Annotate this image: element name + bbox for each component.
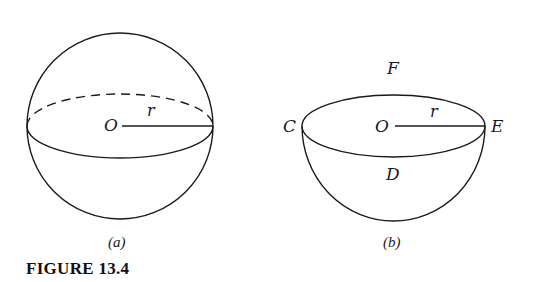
sphere-radius-label: r — [147, 103, 155, 119]
figure-caption: FIGURE 13.4 — [26, 260, 129, 277]
hemisphere-radius-label: r — [430, 104, 438, 120]
panel-a-subcaption: (a) — [108, 235, 126, 250]
hemisphere-diagram — [302, 95, 485, 221]
hemisphere-left-label-C: C — [283, 118, 296, 135]
figure-canvas — [0, 0, 534, 282]
sphere-diagram — [27, 33, 213, 219]
hemisphere-right-label-E: E — [491, 118, 503, 135]
hemisphere-center-label: O — [375, 118, 389, 135]
panel-b-subcaption: (b) — [383, 235, 401, 250]
sphere-equator-back-dashed — [27, 94, 213, 126]
hemisphere-top-label-F: F — [387, 60, 399, 77]
sphere-center-label: O — [104, 117, 118, 134]
sphere-equator-front — [27, 126, 213, 158]
hemisphere-bottom-label-D: D — [386, 166, 400, 183]
